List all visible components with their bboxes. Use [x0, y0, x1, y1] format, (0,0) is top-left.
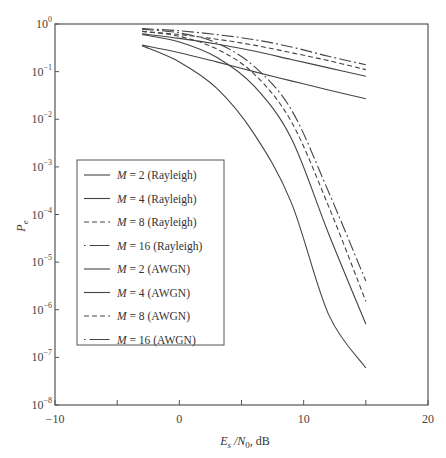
y-axis-title: Pe	[14, 220, 30, 232]
legend-label: M = 2 (Rayleigh)	[116, 169, 197, 182]
legend: M = 2 (Rayleigh)M = 4 (Rayleigh)M = 8 (R…	[77, 160, 224, 347]
x-tick-label: −10	[46, 412, 65, 426]
legend-label: M = 8 (Rayleigh)	[116, 216, 197, 229]
error-probability-chart: 10010−110−210−310−410−510−610−710−8 −100…	[0, 0, 446, 458]
y-tick-label: 10−4	[31, 206, 52, 222]
series-line	[142, 31, 366, 69]
y-tick-label: 10−5	[31, 253, 52, 269]
legend-label: M = 16 (Rayleigh)	[116, 240, 203, 253]
y-tick-label: 10−8	[31, 396, 52, 412]
x-tick-label: 10	[298, 412, 310, 426]
legend-label: M = 4 (Rayleigh)	[116, 193, 197, 206]
legend-label: M = 16 (AWGN)	[116, 334, 196, 347]
y-tick-label: 10−1	[31, 63, 52, 79]
y-tick-label: 10−2	[31, 110, 52, 126]
legend-label: M = 8 (AWGN)	[116, 310, 190, 323]
y-tick-label: 10−3	[31, 158, 52, 174]
y-tick-label: 10−7	[31, 348, 52, 364]
x-axis: −1001020	[46, 400, 434, 426]
legend-label: M = 2 (AWGN)	[116, 263, 190, 276]
x-tick-label: 20	[422, 412, 434, 426]
y-tick-label: 10−6	[31, 301, 52, 317]
series-line	[142, 34, 366, 76]
x-axis-title: Es /N0, dB	[219, 434, 270, 450]
y-tick-label: 100	[36, 15, 52, 31]
legend-label: M = 4 (AWGN)	[116, 287, 190, 300]
x-tick-label: 0	[176, 412, 182, 426]
series-line	[142, 45, 366, 99]
